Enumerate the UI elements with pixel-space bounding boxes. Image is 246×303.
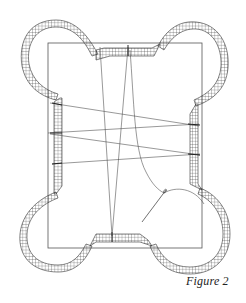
left-edge-strip (54, 98, 62, 194)
working-thread (130, 50, 164, 193)
top-right-lobe (158, 22, 228, 106)
needle-thread-tail (164, 189, 204, 204)
frame-rectangle (48, 43, 202, 248)
knitted-frame-illustration (0, 0, 246, 303)
right-edge-strip (190, 104, 202, 190)
bottom-edge-strip (90, 234, 152, 246)
needle-icon (142, 189, 167, 222)
bottom-right-lobe (150, 188, 230, 274)
figure-caption: Figure 2 (186, 274, 229, 289)
top-left-lobe (21, 20, 98, 100)
strip-ticks (50, 45, 200, 242)
bottom-left-lobe (20, 192, 92, 272)
cross-threads (48, 103, 200, 164)
